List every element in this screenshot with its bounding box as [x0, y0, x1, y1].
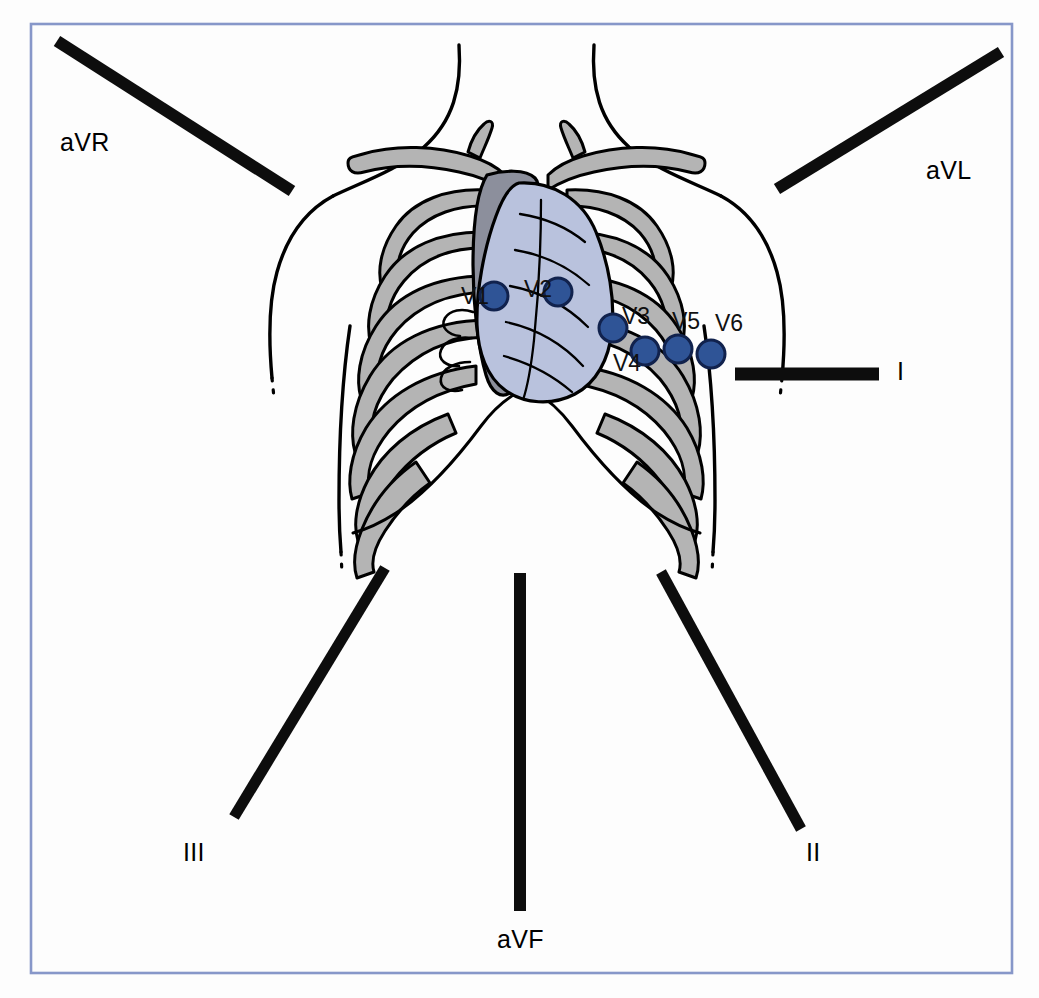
lead-axis-bar-iii — [234, 568, 385, 817]
acromion-left — [468, 121, 492, 158]
lead-label-iii: III — [183, 838, 205, 867]
electrode-label-v2: V2 — [524, 276, 552, 303]
lead-label-avf: aVF — [497, 925, 544, 954]
lead-label-avl: aVL — [926, 156, 971, 185]
electrode-v5 — [664, 335, 692, 363]
lead-label-i: I — [897, 357, 904, 386]
ecg-lead-placement-figure: aVRaVLIIIIaVFII V1V2V3V4V5V6 — [0, 0, 1039, 998]
electrode-label-v4: V4 — [613, 350, 641, 377]
electrode-label-v3: V3 — [622, 303, 650, 330]
electrode-label-v1: V1 — [461, 283, 489, 310]
lead-axis-bar-ii — [661, 572, 801, 829]
acromion-right — [561, 121, 585, 158]
lead-label-avr: aVR — [60, 128, 110, 157]
limb-lead-bars — [57, 41, 1001, 911]
ribcage-left — [350, 190, 486, 578]
electrode-label-v5: V5 — [672, 308, 700, 335]
lead-axis-bar-avr — [57, 41, 292, 191]
electrode-v6 — [697, 340, 725, 368]
electrode-label-v6: V6 — [715, 310, 743, 337]
lead-label-ii: II — [806, 838, 821, 867]
figure-canvas — [0, 0, 1039, 998]
